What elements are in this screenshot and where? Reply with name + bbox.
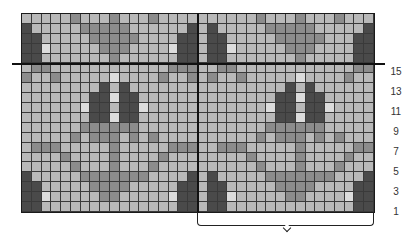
chart-cell [315, 133, 325, 143]
chart-cell [315, 34, 325, 44]
chart-cell [100, 93, 110, 103]
chart-cell [110, 133, 120, 143]
chart-cell [345, 34, 355, 44]
chart-cell [198, 172, 208, 182]
chart-cell [227, 14, 237, 24]
chart-cell [42, 172, 52, 182]
chart-cell [169, 24, 179, 34]
chart-cell [149, 24, 159, 34]
chart-cell [306, 83, 316, 93]
chart-cell [257, 133, 267, 143]
chart-cell [159, 34, 169, 44]
chart-cell [42, 44, 52, 54]
chart-cell [169, 123, 179, 133]
chart-cell [110, 182, 120, 192]
chart-cell [100, 83, 110, 93]
chart-cell [296, 182, 306, 192]
chart-cell [315, 14, 325, 24]
chart-cell [169, 73, 179, 83]
chart-cell [22, 202, 32, 212]
chart-cell [139, 83, 149, 93]
chart-cell [306, 93, 316, 103]
chart-cell [286, 103, 296, 113]
chart-cell [306, 153, 316, 163]
chart-cell [335, 14, 345, 24]
chart-cell [110, 172, 120, 182]
chart-cell [198, 113, 208, 123]
chart-cell [159, 182, 169, 192]
chart-cell [42, 143, 52, 153]
chart-cell [149, 143, 159, 153]
chart-cell [178, 34, 188, 44]
chart-cell [257, 103, 267, 113]
chart-cell [120, 93, 130, 103]
chart-cell [120, 192, 130, 202]
chart-cell [257, 202, 267, 212]
chart-cell [51, 44, 61, 54]
chart-cell [159, 202, 169, 212]
chart-cell [237, 103, 247, 113]
chart-cell [364, 192, 374, 202]
chart-cell [306, 123, 316, 133]
chart-cell [178, 44, 188, 54]
chart-cell [81, 153, 91, 163]
chart-cell [335, 24, 345, 34]
chart-cell [345, 103, 355, 113]
chart-cell [120, 123, 130, 133]
chart-cell [120, 54, 130, 64]
chart-cell [139, 172, 149, 182]
row-label: 5 [386, 166, 406, 177]
chart-cell [286, 162, 296, 172]
chart-cell [345, 202, 355, 212]
row-label: 9 [386, 126, 406, 137]
chart-cell [110, 143, 120, 153]
chart-cell [227, 123, 237, 133]
chart-cell [306, 14, 316, 24]
chart-cell [227, 133, 237, 143]
chart-cell [169, 202, 179, 212]
chart-cell [81, 44, 91, 54]
chart-cell [247, 153, 257, 163]
chart-cell [169, 103, 179, 113]
chart-cell [345, 192, 355, 202]
chart-cell [247, 93, 257, 103]
chart-cell [364, 24, 374, 34]
chart-cell [266, 172, 276, 182]
chart-cell [266, 103, 276, 113]
chart-cell [325, 34, 335, 44]
chart-cell [198, 103, 208, 113]
chart-cell [22, 103, 32, 113]
chart-cell [218, 83, 228, 93]
chart-cell [42, 73, 52, 83]
chart-cell [120, 44, 130, 54]
chart-cell [354, 93, 364, 103]
chart-cell [354, 143, 364, 153]
chart-cell [51, 143, 61, 153]
chart-cell [266, 123, 276, 133]
chart-cell [296, 133, 306, 143]
chart-cell [335, 34, 345, 44]
chart-cell [61, 14, 71, 24]
chart-cell [51, 14, 61, 24]
chart-cell [71, 73, 81, 83]
chart-cell [61, 44, 71, 54]
chart-cell [22, 34, 32, 44]
chart-cell [325, 93, 335, 103]
chart-cell [296, 143, 306, 153]
chart-cell [208, 83, 218, 93]
chart-cell [237, 182, 247, 192]
chart-cell [218, 73, 228, 83]
chart-cell [237, 123, 247, 133]
chart-cell [110, 162, 120, 172]
chart-cell [237, 34, 247, 44]
chart-cell [276, 24, 286, 34]
chart-cell [61, 113, 71, 123]
chart-cell [130, 83, 140, 93]
chart-cell [159, 162, 169, 172]
chart-cell [51, 93, 61, 103]
chart-cell [266, 113, 276, 123]
chart-cell [364, 113, 374, 123]
chart-cell [364, 34, 374, 44]
chart-cell [110, 14, 120, 24]
chart-cell [276, 133, 286, 143]
